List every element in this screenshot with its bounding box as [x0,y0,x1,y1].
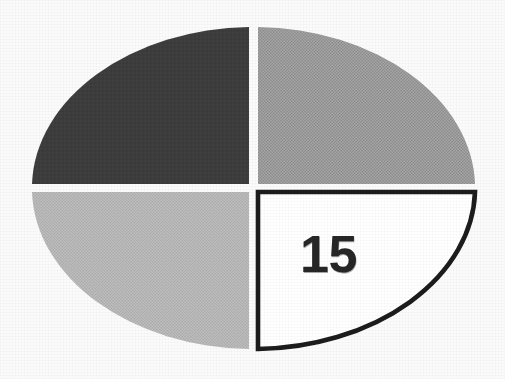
pie-slice-bottom-right[interactable] [258,192,475,349]
pie-slice-top-left[interactable] [32,27,249,184]
pie-slice-label-bottom-right: 15 [300,228,357,280]
pie-chart [0,0,505,379]
pie-slice-bottom-left[interactable] [32,192,249,349]
pie-slice-top-right[interactable] [258,27,475,184]
figure-canvas: 15 [0,0,505,379]
